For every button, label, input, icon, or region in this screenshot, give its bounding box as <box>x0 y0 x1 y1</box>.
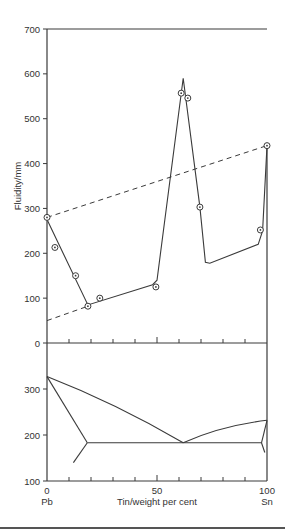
data-point <box>85 303 91 309</box>
top-panel: 0100200300400500600700 Fluidity/mm <box>12 24 270 349</box>
data-point <box>73 273 79 279</box>
data-point-dot <box>199 206 201 208</box>
data-point <box>257 227 263 233</box>
y-tick-label: 200 <box>24 248 40 259</box>
data-point <box>185 95 191 101</box>
x-end-label-pb: Pb <box>41 496 53 507</box>
data-point <box>197 204 203 210</box>
bottom-panel: 100200300 0 50 100 Pb Sn Tin/weight per … <box>24 343 275 507</box>
x-end-label-sn: Sn <box>261 496 273 507</box>
upper-linear-trend-line <box>47 146 267 218</box>
data-point-dot <box>54 247 56 249</box>
data-point <box>264 143 270 149</box>
data-point-dot <box>260 229 262 231</box>
y-tick-label: 0 <box>35 338 40 349</box>
solvus-Pb-side-line <box>73 443 87 463</box>
data-point <box>52 244 58 250</box>
data-point-dot <box>46 217 48 219</box>
solvus-Sn-side-line <box>262 443 265 453</box>
y-tick-label: 300 <box>24 203 40 214</box>
liquidus-Sn-side-line <box>183 420 267 443</box>
y-tick-label: 200 <box>24 430 40 441</box>
data-point-dot <box>87 305 89 307</box>
x-tick-label-0: 0 <box>44 485 49 496</box>
data-point <box>44 214 50 220</box>
data-point-dot <box>266 145 268 147</box>
y-tick-label: 500 <box>24 113 40 124</box>
x-tick-label-50: 50 <box>152 485 163 496</box>
y-tick-label: 100 <box>24 476 40 487</box>
y-axis-label: Fluidity/mm <box>12 162 23 211</box>
solidus-Sn-side-line <box>262 420 268 443</box>
y-tick-label: 400 <box>24 158 40 169</box>
fluidity-and-phase-diagram-chart: 0100200300400500600700 Fluidity/mm 10020… <box>0 0 285 531</box>
fluidity-curve-line <box>47 78 267 305</box>
data-point-dot <box>99 297 101 299</box>
lower-linear-trend-line <box>47 306 88 320</box>
y-tick-label: 700 <box>24 24 40 35</box>
data-point-dot <box>155 286 157 288</box>
y-tick-label: 100 <box>24 293 40 304</box>
solidus-Pb-side-line <box>47 377 87 443</box>
data-point-dot <box>180 92 182 94</box>
x-axis-label: Tin/weight per cent <box>117 496 197 507</box>
data-point-dot <box>75 275 77 277</box>
data-point-dot <box>187 97 189 99</box>
data-point <box>178 90 184 96</box>
data-point <box>97 295 103 301</box>
x-tick-label-100: 100 <box>259 485 275 496</box>
y-tick-label: 300 <box>24 384 40 395</box>
data-point <box>153 284 159 290</box>
y-tick-label: 600 <box>24 68 40 79</box>
